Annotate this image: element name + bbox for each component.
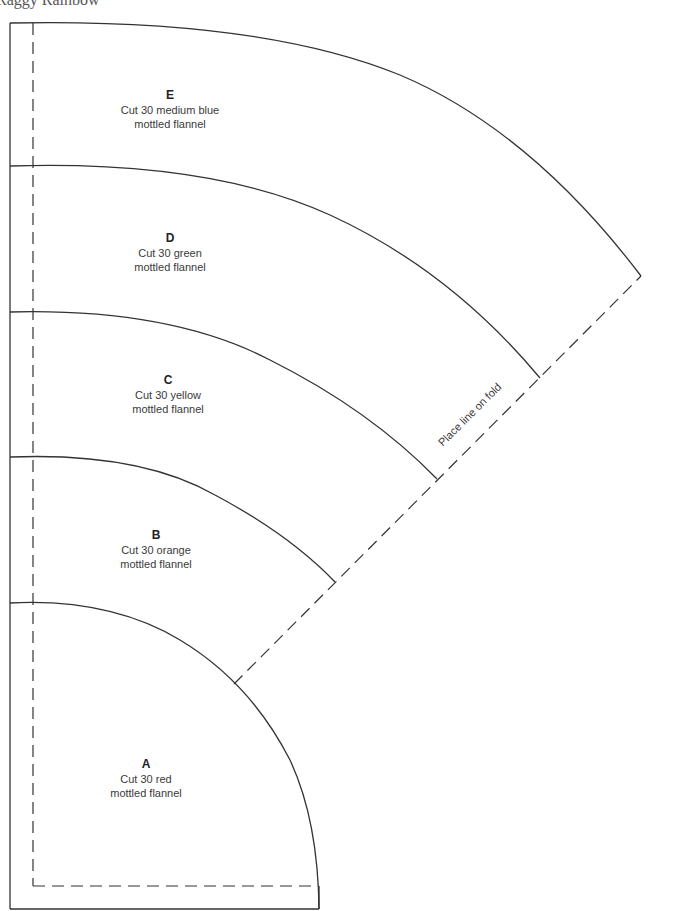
piece-label-c: C Cut 30 yellow mottled flannel bbox=[78, 373, 258, 416]
piece-letter: A bbox=[56, 757, 236, 772]
arc-a bbox=[10, 602, 319, 909]
piece-label-b: B Cut 30 orange mottled flannel bbox=[66, 528, 246, 571]
piece-letter: B bbox=[66, 528, 246, 543]
piece-fabric: mottled flannel bbox=[78, 402, 258, 416]
piece-label-e: E Cut 30 medium blue mottled flannel bbox=[80, 88, 260, 131]
piece-letter: D bbox=[80, 231, 260, 246]
piece-instruction: Cut 30 green bbox=[80, 246, 260, 260]
piece-letter: C bbox=[78, 373, 258, 388]
fold-line bbox=[234, 276, 641, 684]
piece-label-a: A Cut 30 red mottled flannel bbox=[56, 757, 236, 800]
piece-label-d: D Cut 30 green mottled flannel bbox=[80, 231, 260, 274]
piece-instruction: Cut 30 red bbox=[56, 772, 236, 786]
piece-instruction: Cut 30 yellow bbox=[78, 388, 258, 402]
piece-fabric: mottled flannel bbox=[56, 786, 236, 800]
piece-instruction: Cut 30 medium blue bbox=[80, 103, 260, 117]
piece-letter: E bbox=[80, 88, 260, 103]
piece-fabric: mottled flannel bbox=[80, 117, 260, 131]
piece-fabric: mottled flannel bbox=[66, 557, 246, 571]
piece-instruction: Cut 30 orange bbox=[66, 543, 246, 557]
piece-fabric: mottled flannel bbox=[80, 260, 260, 274]
